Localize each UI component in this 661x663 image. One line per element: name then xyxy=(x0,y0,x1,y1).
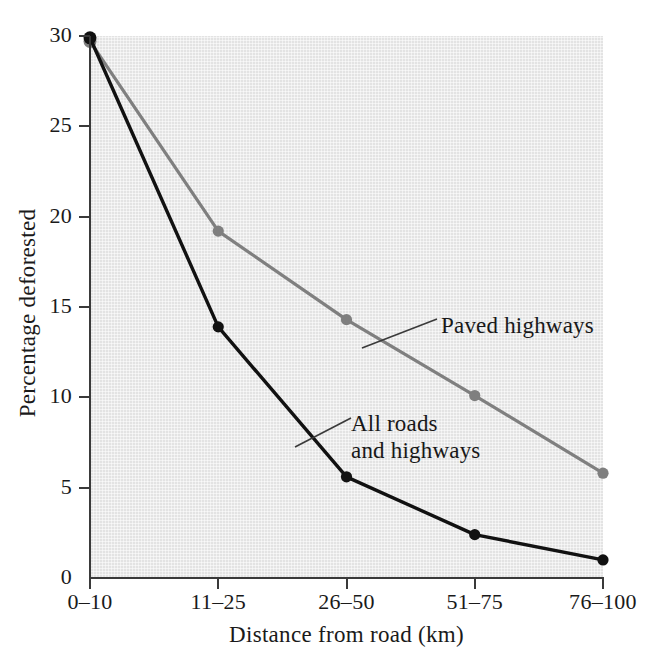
plot-area xyxy=(90,36,603,578)
x-axis-title: Distance from road (km) xyxy=(90,622,603,648)
y-tick-mark xyxy=(79,216,90,218)
x-tick-mark xyxy=(474,578,476,589)
x-tick-label: 0–10 xyxy=(67,590,112,614)
data-point-marker xyxy=(213,226,224,237)
data-point-marker xyxy=(341,314,352,325)
y-tick-mark xyxy=(79,306,90,308)
series-group xyxy=(84,31,609,565)
x-tick-label: 26–50 xyxy=(318,590,375,614)
y-tick-mark xyxy=(79,396,90,398)
series-line xyxy=(90,41,603,473)
x-tick-mark xyxy=(217,578,219,589)
y-axis-title: Percentage deforested xyxy=(15,33,41,593)
y-tick-mark xyxy=(79,487,90,489)
data-point-marker xyxy=(469,529,480,540)
data-point-marker xyxy=(597,468,608,479)
x-tick-mark xyxy=(89,578,91,589)
y-tick-mark xyxy=(79,35,90,37)
data-point-marker xyxy=(341,471,352,482)
annotation-paved-highways: Paved highways xyxy=(441,312,594,339)
x-tick-mark xyxy=(346,578,348,589)
data-point-marker xyxy=(469,390,480,401)
x-tick-label: 76–100 xyxy=(569,590,637,614)
chart-plot-svg xyxy=(90,36,603,578)
chart-container: 051015202530 0–1011–2526–5051–7576–100 D… xyxy=(0,0,661,663)
x-tick-label: 11–25 xyxy=(190,590,246,614)
annotation-all-roads: All roads and highways xyxy=(351,410,481,464)
data-point-marker xyxy=(597,554,608,565)
x-tick-mark xyxy=(602,578,604,589)
data-point-marker xyxy=(213,321,224,332)
y-tick-mark xyxy=(79,125,90,127)
annotation-leader-line xyxy=(295,418,351,447)
annotation-leader-line xyxy=(362,319,437,348)
x-tick-label: 51–75 xyxy=(447,590,504,614)
